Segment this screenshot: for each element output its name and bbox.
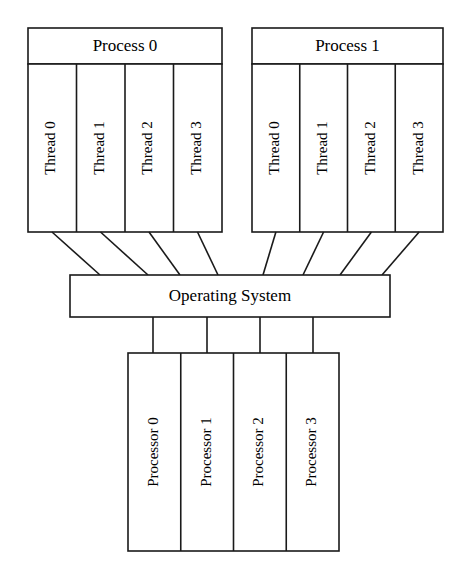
process-0-thread-1-label: Thread 1 [91,121,107,175]
connector-process-1-thread-1-to-os [303,232,324,275]
process-1-group: Process 1 Thread 0 Thread 1 Thread 2 Thr… [252,28,443,232]
process-0-thread-3-label: Thread 3 [188,121,204,175]
process-0-label: Process 0 [93,36,158,55]
os-to-processor-connectors [153,317,313,353]
processor-2-label: Processor 2 [250,417,266,487]
process-1-thread-2-label: Thread 2 [362,121,378,175]
connector-process-1-thread-3-to-os [382,232,419,275]
thread-to-os-connectors [52,232,419,275]
process-0-group: Process 0 Thread 0 Thread 1 Thread 2 Thr… [28,28,222,232]
connector-process-1-thread-2-to-os [340,232,371,275]
process-1-thread-0-label: Thread 0 [266,121,282,175]
connector-process-1-thread-0-to-os [263,232,276,275]
processor-0-label: Processor 0 [145,417,161,487]
processor-3-label: Processor 3 [303,417,319,487]
process-thread-processor-diagram: Process 0 Thread 0 Thread 1 Thread 2 Thr… [0,0,469,583]
processor-1-label: Processor 1 [198,417,214,487]
connector-process-0-thread-0-to-os [52,232,100,275]
process-1-thread-3-label: Thread 3 [410,121,426,175]
process-1-label: Process 1 [315,36,380,55]
process-0-thread-0-label: Thread 0 [42,121,58,175]
process-0-thread-2-label: Thread 2 [139,121,155,175]
process-1-thread-1-label: Thread 1 [314,121,330,175]
diagram-canvas: Process 0 Thread 0 Thread 1 Thread 2 Thr… [0,0,469,583]
connector-process-0-thread-2-to-os [149,232,180,275]
connector-process-0-thread-1-to-os [101,232,149,275]
operating-system-label: Operating System [169,286,291,305]
operating-system-group: Operating System [70,275,390,317]
connector-process-0-thread-3-to-os [198,232,219,275]
processors-group: Processor 0 Processor 1 Processor 2 Proc… [128,353,339,551]
